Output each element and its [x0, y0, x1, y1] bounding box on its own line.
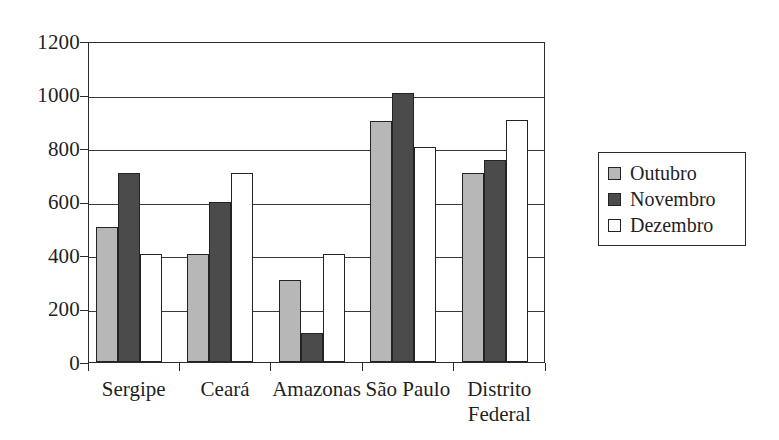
- x-tick-mark-1: [179, 363, 180, 371]
- y-tick-label-1200: 1200: [10, 32, 80, 53]
- y-tick-label-800: 800: [10, 139, 80, 160]
- legend-item-outubro: Outubro: [608, 160, 745, 186]
- y-tick-label-400: 400: [10, 246, 80, 267]
- x-tick-mark-4: [453, 363, 454, 371]
- legend-item-novembro: Novembro: [608, 186, 745, 212]
- y-tick-label-0: 0: [10, 353, 80, 374]
- bar-dezembro-2: [323, 254, 345, 362]
- bar-outubro-1: [187, 254, 209, 362]
- legend-item-dezembro: Dezembro: [608, 212, 745, 238]
- y-tick-label-1000: 1000: [10, 85, 80, 106]
- chart-legend: Outubro Novembro Dezembro: [598, 152, 746, 246]
- x-tick-mark-3: [362, 363, 363, 371]
- legend-label-dezembro: Dezembro: [630, 215, 713, 235]
- bar-dezembro-1: [231, 173, 253, 362]
- legend-swatch-dezembro-icon: [608, 219, 621, 232]
- bar-novembro-4: [484, 160, 506, 362]
- bar-novembro-0: [118, 173, 140, 362]
- y-axis: 1200 1000 800 600 400 200 0: [8, 0, 80, 440]
- x-tick-mark-2: [270, 363, 271, 371]
- bar-chart-figure: 1200 1000 800 600 400 200 0 SergipeCeará…: [0, 0, 779, 440]
- bar-dezembro-3: [414, 147, 436, 362]
- bar-novembro-1: [209, 202, 231, 363]
- legend-label-novembro: Novembro: [630, 189, 716, 209]
- bar-novembro-2: [301, 333, 323, 362]
- plot-area: [88, 42, 545, 363]
- x-tick-mark-5: [545, 363, 546, 371]
- legend-label-outubro: Outubro: [630, 163, 697, 183]
- y-tick-label-600: 600: [10, 192, 80, 213]
- y-tick-label-200: 200: [10, 299, 80, 320]
- bars-layer: [89, 43, 544, 362]
- x-tick-mark-0: [88, 363, 89, 371]
- bar-dezembro-4: [506, 120, 528, 362]
- bar-outubro-3: [370, 121, 392, 362]
- bar-dezembro-0: [140, 254, 162, 362]
- legend-swatch-novembro-icon: [608, 193, 621, 206]
- bar-outubro-4: [462, 173, 484, 362]
- bar-outubro-0: [96, 227, 118, 362]
- legend-swatch-outubro-icon: [608, 167, 621, 180]
- x-category-label-4: Distrito Federal: [436, 377, 563, 427]
- bar-novembro-3: [392, 93, 414, 362]
- bar-outubro-2: [279, 280, 301, 362]
